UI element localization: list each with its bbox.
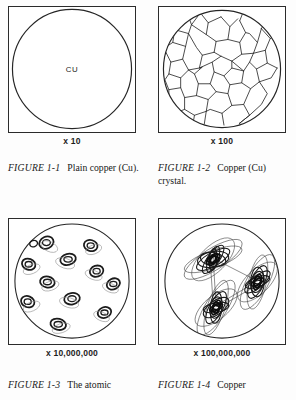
figure-1-3-frame	[8, 218, 136, 345]
figure-1-2-frame	[158, 6, 286, 133]
element-symbol-label: CU	[66, 65, 79, 74]
textbook-page: CU x 10	[0, 0, 296, 400]
caption-figure-1-1: FIGURE 1-1Plain copper (Cu).	[8, 161, 144, 174]
figure-1-3-cell: x 10,000,000	[8, 218, 148, 358]
caption-number: FIGURE 1-1	[8, 162, 60, 173]
caption-number: FIGURE 1-2	[158, 162, 210, 173]
magnification-label-2: x 100	[158, 136, 286, 146]
magnification-label-3: x 10,000,000	[8, 348, 136, 358]
atomic-structure-diagram	[9, 219, 135, 344]
caption-text: Copper	[217, 379, 246, 390]
caption-figure-1-3: FIGURE 1-3The atomic	[8, 378, 144, 391]
caption-figure-1-4: FIGURE 1-4Copper	[158, 378, 294, 391]
caption-number: FIGURE 1-3	[8, 379, 60, 390]
caption-number: FIGURE 1-4	[158, 379, 210, 390]
plain-copper-diagram: CU	[9, 7, 135, 132]
figure-1-1-frame: CU	[8, 6, 136, 133]
caption-text: The atomic	[67, 379, 111, 390]
caption-text: Plain copper (Cu).	[67, 162, 138, 173]
caption-figure-1-2: FIGURE 1-2Copper (Cu) crystal.	[158, 161, 294, 188]
copper-crystal-diagram	[159, 7, 285, 132]
figure-1-4-frame	[158, 218, 286, 345]
figure-1-1-cell: CU x 10	[8, 6, 148, 146]
figure-1-2-cell: x 100	[158, 6, 296, 146]
magnification-label-4: x 100,000,000	[158, 348, 286, 358]
crystal-disc-outline	[163, 10, 280, 127]
magnification-label-1: x 10	[8, 136, 136, 146]
figure-1-4-cell: x 100,000,000	[158, 218, 296, 358]
copper-atom-orbital-diagram	[159, 219, 285, 344]
